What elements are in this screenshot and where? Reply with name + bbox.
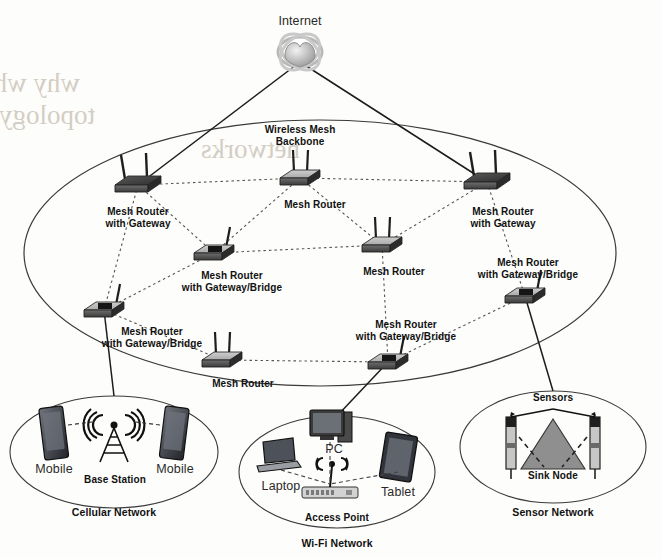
router-label-mr-gwb-bot: Mesh Router with Gateway/Bridge xyxy=(346,319,466,342)
router-label-mr-gwb-left: Mesh Router with Gateway/Bridge xyxy=(172,270,292,293)
subnetwork-caption-cellular: Cellular Network xyxy=(49,507,179,519)
router-icon-mr-gwb-far-left xyxy=(84,284,124,317)
node-label-sensor-1: Sink Node xyxy=(505,470,601,482)
smartphone-icon-0 xyxy=(39,406,69,461)
node-label-sensor-0: Sensors xyxy=(505,392,601,404)
gateway-link xyxy=(337,362,388,416)
network-diagram: why while optimal design for thetopology… xyxy=(0,0,662,559)
gateway-link xyxy=(104,310,114,396)
desktop-pc-icon xyxy=(310,410,352,442)
globe-icon xyxy=(273,27,326,78)
bleed-text-1: topology transmission over the xyxy=(0,100,95,130)
sink-node-icon xyxy=(521,419,585,469)
bleed-text-0: why while optimal design for the xyxy=(0,68,80,98)
router-label-mr-gwb-right: Mesh Router with Gateway/Bridge xyxy=(468,257,588,280)
node-label-wifi-3: Access Point xyxy=(289,512,385,524)
router-label-mr-bottom: Mesh Router xyxy=(183,378,303,390)
router-label-mr-mid: Mesh Router xyxy=(334,266,454,278)
router-label-mr-gw-right: Mesh Router with Gateway xyxy=(443,206,563,229)
node-label-wifi-1: Laptop xyxy=(233,481,329,493)
node-label-cellular-1: Base Station xyxy=(67,474,163,486)
mesh-link xyxy=(138,178,300,185)
node-label-wifi-0: PC xyxy=(286,444,382,456)
mesh-link xyxy=(214,245,382,253)
internet-label: Internet xyxy=(250,16,350,28)
gateway-link xyxy=(525,296,553,391)
router-icon-mr-gwb-left xyxy=(194,227,234,260)
node-label-cellular-2: Mobile xyxy=(127,464,223,476)
node-label-wifi-2: Tablet xyxy=(350,487,446,499)
subnetwork-caption-sensor: Sensor Network xyxy=(488,507,618,519)
mesh-link xyxy=(222,360,388,362)
mesh-link xyxy=(300,178,382,245)
backbone-label: Wireless Mesh Backbone xyxy=(240,124,360,147)
subnetwork-caption-wifi: Wi-Fi Network xyxy=(272,538,402,550)
smartphone-icon-2 xyxy=(159,406,189,461)
router-icon-mr-mid xyxy=(362,217,402,252)
page-bleed-through: why while optimal design for thetopology… xyxy=(0,68,300,164)
router-label-mr-gwb-far-left: Mesh Router with Gateway/Bridge xyxy=(92,326,212,349)
mesh-link xyxy=(104,185,138,310)
cell-tower-icon-1 xyxy=(84,409,145,462)
tablet-icon xyxy=(379,432,418,482)
router-icon-mr-gw-right xyxy=(464,150,510,189)
mesh-link xyxy=(382,245,388,362)
router-label-mr-top: Mesh Router xyxy=(255,199,375,211)
gateway-link xyxy=(300,62,487,182)
mesh-link xyxy=(300,178,487,182)
router-label-mr-gw-left: Mesh Router with Gateway xyxy=(78,206,198,229)
